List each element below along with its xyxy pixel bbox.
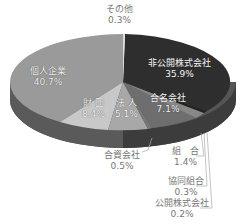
label-value: 8.4% bbox=[82, 109, 105, 120]
label-value: 1.4% bbox=[172, 157, 199, 168]
label-value: 0.5% bbox=[104, 161, 140, 172]
label-kojin: 個人企業 40.7% bbox=[30, 66, 66, 88]
label-kyoudou: 協同組合 0.3% bbox=[168, 176, 204, 198]
label-value: 0.3% bbox=[168, 187, 204, 198]
label-name: 協同組合 bbox=[168, 176, 204, 187]
label-name: 財 団 bbox=[82, 98, 105, 109]
label-value: 7.1% bbox=[150, 104, 186, 115]
label-name: 法 人 bbox=[115, 98, 138, 109]
label-value: 5.1% bbox=[115, 109, 138, 120]
label-value: 40.7% bbox=[30, 77, 66, 88]
label-name: 個人企業 bbox=[30, 66, 66, 77]
label-name: 公開株式会社 bbox=[155, 198, 209, 209]
label-value: 0.2% bbox=[155, 209, 209, 220]
label-value: 0.3% bbox=[106, 15, 133, 26]
label-name: 組 合 bbox=[172, 146, 199, 157]
label-koukai: 公開株式会社 0.2% bbox=[155, 198, 209, 220]
label-name: 非公開株式会社 bbox=[148, 58, 211, 69]
label-goushi: 合資会社 0.5% bbox=[104, 150, 140, 172]
label-shadan: 法 人 5.1% bbox=[115, 98, 138, 120]
label-sonota: その他 0.3% bbox=[106, 4, 133, 26]
label-name: 合資会社 bbox=[104, 150, 140, 161]
label-name: 合名会社 bbox=[150, 93, 186, 104]
label-zaidan: 財 団 8.4% bbox=[82, 98, 105, 120]
label-kumiai: 組 合 1.4% bbox=[172, 146, 199, 168]
label-value: 35.9% bbox=[148, 69, 211, 80]
label-goumei: 合名会社 7.1% bbox=[150, 93, 186, 115]
label-name: その他 bbox=[106, 4, 133, 15]
label-hikoukai: 非公開株式会社 35.9% bbox=[148, 58, 211, 80]
